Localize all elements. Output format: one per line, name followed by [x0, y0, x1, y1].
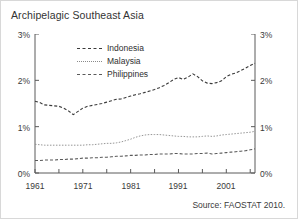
y-axis-label-2: 2%: [4, 76, 30, 86]
x-axis-label-2001: 2001: [206, 181, 246, 191]
y-axis-right-label-0: 0%: [260, 169, 286, 179]
legend-item-malaysia: Malaysia: [77, 56, 148, 67]
y-axis-right-label-3: 3%: [260, 30, 286, 40]
series-line-philippines: [35, 149, 255, 161]
x-axis-ticks: [35, 169, 250, 173]
legend-label-malaysia: Malaysia: [107, 56, 141, 67]
legend-line-icon-philippines: [77, 74, 102, 75]
series-line-malaysia: [35, 131, 255, 145]
legend-label-indonesia: Indonesia: [107, 43, 144, 54]
x-axis-label-1961: 1961: [15, 181, 55, 191]
legend-item-philippines: Philippines: [77, 69, 148, 80]
y-axis-label-0: 0%: [4, 169, 30, 179]
legend-item-indonesia: Indonesia: [77, 43, 148, 54]
x-axis-label-1981: 1981: [111, 181, 151, 191]
legend-label-philippines: Philippines: [107, 69, 148, 80]
page-title: Archipelagic Southeast Asia: [11, 9, 144, 21]
legend-line-icon-malaysia: [77, 61, 102, 62]
chart-legend: Indonesia Malaysia Philippines: [77, 43, 148, 82]
chart-figure: Archipelagic Southeast Asia 3% 2% 1% 0% …: [0, 0, 298, 219]
legend-line-icon-indonesia: [77, 48, 102, 49]
y-axis-ticks-right: [251, 34, 255, 173]
y-axis-label-1: 1%: [4, 123, 30, 133]
y-axis-label-3: 3%: [4, 30, 30, 40]
y-axis-ticks-left: [35, 34, 39, 173]
source-note: Source: FAOSTAT 2010.: [192, 200, 285, 210]
x-axis-label-1991: 1991: [158, 181, 198, 191]
x-axis-label-1971: 1971: [63, 181, 103, 191]
y-axis-right-label-1: 1%: [260, 123, 286, 133]
y-axis-right-label-2: 2%: [260, 76, 286, 86]
